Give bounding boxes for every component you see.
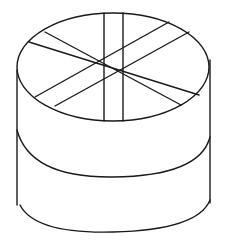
- cut-lines: [29, 13, 199, 121]
- cake-drawing: [0, 0, 225, 250]
- cut-line-diag-2: [45, 32, 181, 105]
- cut-line-diag-4: [55, 32, 189, 106]
- cake-figure-svg: [0, 0, 225, 250]
- middle-layer-curve: [17, 130, 210, 177]
- cut-line-diag-3: [35, 22, 169, 97]
- bottom-curve: [20, 200, 210, 232]
